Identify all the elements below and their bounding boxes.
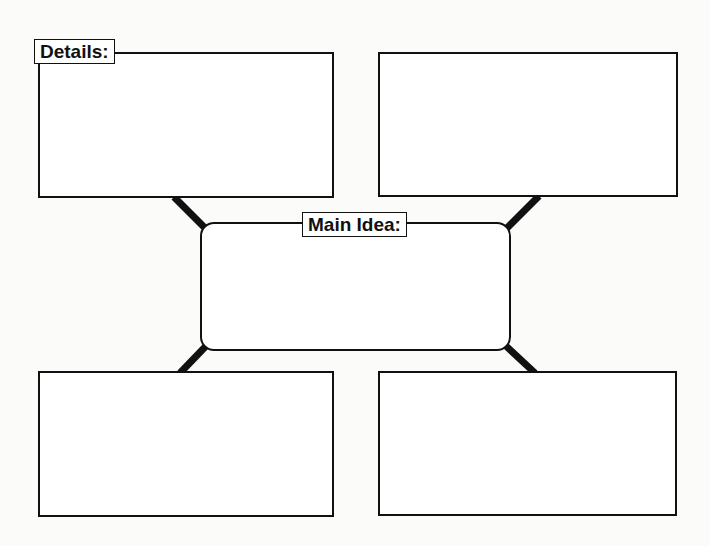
detail-box-top-left[interactable] [38,52,334,198]
connector-top-left [174,197,206,229]
detail-box-bottom-right[interactable] [378,371,677,516]
detail-box-bottom-left[interactable] [38,371,334,517]
main-idea-box[interactable] [200,222,511,351]
connector-top-right [506,196,539,229]
main-idea-label: Main Idea: [302,212,407,237]
connector-bottom-right [506,346,535,373]
connector-bottom-left [180,346,206,373]
details-label: Details: [34,39,115,64]
detail-box-top-right[interactable] [378,52,678,197]
